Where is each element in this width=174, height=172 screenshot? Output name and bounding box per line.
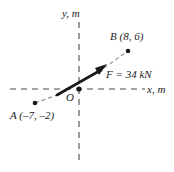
force-label: F = 34 kN	[106, 69, 152, 80]
origin-label-text: O	[66, 91, 74, 103]
point-a-label-text: A (–7, –2)	[10, 109, 54, 121]
point-b-label: B (8, 6)	[110, 31, 143, 42]
point-b-label-text: B (8, 6)	[110, 30, 143, 42]
force-label-text: F = 34 kN	[106, 68, 152, 80]
y-axis-label: y, m	[62, 8, 80, 19]
line-of-action-upper	[104, 51, 128, 68]
origin-marker	[76, 86, 81, 91]
origin-label: O	[66, 92, 74, 103]
point-b-marker	[126, 49, 131, 54]
point-a-marker	[33, 101, 38, 106]
point-a-label: A (–7, –2)	[10, 110, 54, 121]
x-axis-label: x, m	[147, 84, 165, 95]
y-axis-label-text: y, m	[62, 7, 80, 19]
force-vector-diagram: y, m x, m O B (8, 6) A (–7, –2) F = 34 k…	[0, 0, 174, 172]
x-axis-label-text: x, m	[147, 83, 165, 95]
